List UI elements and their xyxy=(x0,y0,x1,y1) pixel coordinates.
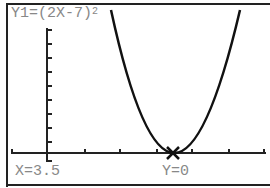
graph-plot xyxy=(0,0,270,188)
trace-y-readout: Y=0 xyxy=(162,164,189,180)
equation-text: Y1=(2X-7) xyxy=(11,5,92,22)
trace-x-readout: X=3.5 xyxy=(15,164,60,180)
calculator-graph-screen: Y1=(2X-7)2 X=3.5 Y=0 xyxy=(0,0,270,188)
equation-label: Y1=(2X-7)2 xyxy=(11,6,99,22)
equation-exponent: 2 xyxy=(92,6,98,17)
parabola-curve xyxy=(111,10,240,153)
